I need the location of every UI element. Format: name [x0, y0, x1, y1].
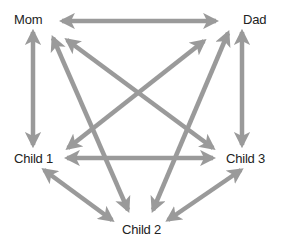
- arrows-layer: [0, 0, 282, 245]
- arrow-child3-child2: [168, 170, 241, 220]
- family-diagram: Mom Dad Child 1 Child 2 Child 3: [0, 0, 282, 245]
- node-mom: Mom: [14, 12, 42, 27]
- node-child2: Child 2: [122, 222, 161, 237]
- arrow-dad-child2: [153, 33, 228, 210]
- node-child3: Child 3: [226, 151, 265, 166]
- node-child1: Child 1: [14, 151, 53, 166]
- arrow-child1-child2: [44, 170, 112, 220]
- node-dad: Dad: [243, 12, 266, 27]
